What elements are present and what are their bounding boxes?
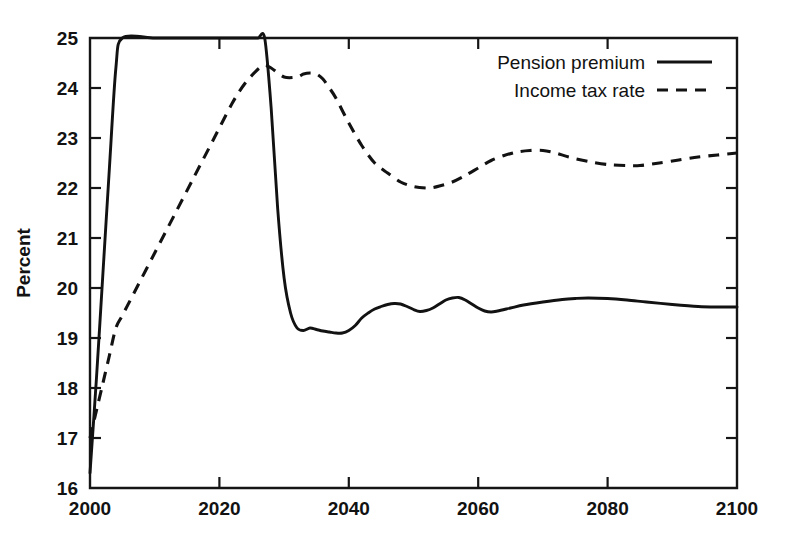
y-tick-label: 16 — [57, 478, 78, 499]
x-tick-label: 2040 — [328, 498, 370, 519]
y-axis-tick-labels: 16171819202122232425 — [57, 28, 79, 499]
x-tick-label: 2020 — [198, 498, 240, 519]
y-tick-label: 22 — [57, 178, 78, 199]
x-axis-tick-labels: 200020202040206020802100 — [69, 498, 758, 519]
x-tick-label: 2000 — [69, 498, 111, 519]
y-axis-ticks — [90, 88, 737, 438]
y-tick-label: 24 — [57, 78, 79, 99]
y-tick-label: 21 — [57, 228, 79, 249]
y-tick-label: 23 — [57, 128, 78, 149]
legend-label-pension-premium: Pension premium — [497, 52, 645, 73]
axis-frame — [90, 38, 737, 488]
x-tick-label: 2100 — [716, 498, 758, 519]
y-tick-label: 25 — [57, 28, 79, 49]
legend-label-income-tax-rate: Income tax rate — [514, 80, 645, 101]
y-axis-title-group: Percent — [13, 227, 34, 297]
chart-figure: 16171819202122232425 2000202020402060208… — [0, 0, 785, 545]
series-line-income-tax-rate — [90, 65, 737, 438]
y-tick-label: 18 — [57, 378, 78, 399]
x-tick-label: 2080 — [586, 498, 628, 519]
y-tick-label: 19 — [57, 328, 78, 349]
chart-canvas: 16171819202122232425 2000202020402060208… — [0, 0, 785, 545]
y-tick-label: 17 — [57, 428, 78, 449]
x-tick-label: 2060 — [457, 498, 499, 519]
plot-frame — [90, 38, 737, 488]
y-axis-title: Percent — [13, 227, 34, 297]
x-axis-ticks — [219, 38, 607, 488]
chart-legend: Pension premiumIncome tax rate — [497, 52, 712, 101]
y-tick-label: 20 — [57, 278, 78, 299]
